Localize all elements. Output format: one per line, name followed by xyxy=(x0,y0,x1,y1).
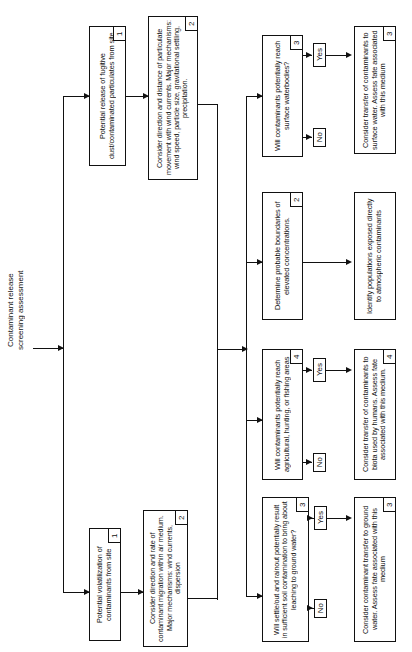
arrow-d3sw-yes xyxy=(306,52,312,58)
yes-text: Yes xyxy=(316,363,324,376)
arrow-to-a4 xyxy=(346,367,352,373)
arrow-to-a3gw xyxy=(346,515,352,521)
node-label: Will contaminants potentially reach surf… xyxy=(263,36,302,156)
node-potential-volatilization[interactable]: Potential volatilization of contaminants… xyxy=(89,528,121,641)
arrow-d3gw-no xyxy=(307,605,313,611)
node-label: Potential release of fugitive dust/conta… xyxy=(90,27,125,165)
trunk-main-vertical xyxy=(63,96,64,593)
no-text: No xyxy=(316,132,324,142)
decision-reach-agricultural-areas[interactable]: Will contaminants potentially reach agri… xyxy=(262,349,303,480)
arrow-to-a3sw xyxy=(346,52,352,58)
node-determine-probable-boundaries[interactable]: Determine probable boundaries of elevate… xyxy=(262,192,303,320)
decision-leaching-to-ground-water[interactable]: Will settle/out and rainout potentially … xyxy=(262,497,309,642)
action-transfer-to-ground-water[interactable]: Consider contaminant transfer to ground … xyxy=(354,497,396,642)
action-transfer-to-surface-water[interactable]: Consider transfer of contaminants to sur… xyxy=(354,26,396,154)
label-no-ground-water: No xyxy=(314,599,327,618)
label-yes-ground-water: Yes xyxy=(314,506,327,530)
node-potential-release-fugitive-dust[interactable]: Potential release of fugitive dust/conta… xyxy=(89,26,126,166)
node-number: 3 xyxy=(383,26,396,41)
flowchart-canvas: Contaminant release screening assessment… xyxy=(0,0,412,652)
node-consider-particulate-movement[interactable]: Consider direction and distance of parti… xyxy=(148,16,198,180)
no-text: No xyxy=(317,603,325,613)
arrow-d4-no xyxy=(306,459,312,465)
node-number: 4 xyxy=(290,349,303,364)
node-number: 2 xyxy=(185,16,198,31)
label-no-biota: No xyxy=(313,453,326,472)
node-label: Will settle/out and rainout potentially … xyxy=(263,498,308,641)
arrow-d3gw-yes xyxy=(307,515,313,521)
distribution-vertical xyxy=(246,96,247,596)
node-number: 1 xyxy=(113,26,126,41)
arrow-n2c-to-n2c2 xyxy=(346,259,352,265)
connector-n2a-out xyxy=(198,104,218,105)
connector-n2b-out xyxy=(188,598,218,599)
node-number: 3 xyxy=(296,497,309,512)
connector-n2c-to-n2c2 xyxy=(303,262,350,263)
node-label: Consider transfer of contaminants to sur… xyxy=(355,27,395,153)
node-number: 4 xyxy=(383,349,396,364)
yes-text: Yes xyxy=(317,511,325,524)
label-yes-biota: Yes xyxy=(313,358,326,382)
yes-text: Yes xyxy=(316,48,324,61)
node-number: 2 xyxy=(290,192,303,207)
arrow-d4-yes xyxy=(306,367,312,373)
node-label: Potential volatilization of contaminants… xyxy=(90,529,120,640)
arrow-d3sw-no xyxy=(306,134,312,140)
diagram-title: Contaminant release screening assessment xyxy=(6,250,32,370)
node-label: Consider contaminant transfer to ground … xyxy=(355,498,395,641)
node-number: 2 xyxy=(175,510,188,525)
action-transfer-to-biota[interactable]: Consider transfer of contaminants to bio… xyxy=(354,349,396,480)
no-text: No xyxy=(316,457,324,467)
decision-reach-surface-waterbodies[interactable]: Will contaminants potentially reach surf… xyxy=(262,35,303,157)
label-yes-surface-water: Yes xyxy=(313,43,326,67)
node-number: 1 xyxy=(108,528,121,543)
node-label: Consider direction and distance of parti… xyxy=(149,17,197,179)
node-identify-populations-exposed[interactable]: Identify populations exposed directly to… xyxy=(354,192,396,320)
node-consider-air-migration[interactable]: Consider direction and rate of contamina… xyxy=(143,510,188,647)
node-label: Consider direction and rate of contamina… xyxy=(144,511,187,646)
label-no-surface-water: No xyxy=(313,128,326,147)
node-label: Identify populations exposed directly to… xyxy=(355,193,395,319)
bus-vertical-merge xyxy=(217,104,218,600)
node-label: Consider transfer of contaminants to bio… xyxy=(355,350,395,479)
node-number: 3 xyxy=(290,35,303,50)
node-label: Determine probable boundaries of elevate… xyxy=(263,193,302,319)
node-number: 3 xyxy=(383,497,396,512)
node-label: Will contaminants potentially reach agri… xyxy=(263,350,302,479)
